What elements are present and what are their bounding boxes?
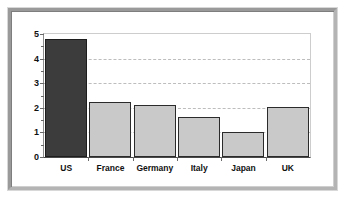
bar-japan[interactable]: [222, 132, 264, 157]
x-tick-4: [221, 157, 222, 161]
y-axis-label-3: 3: [34, 79, 39, 88]
plot-area: 5 4 3 2 1 0: [43, 33, 311, 158]
x-axis-label-italy: Italy: [191, 164, 208, 173]
x-tick-3: [177, 157, 178, 161]
bar-france[interactable]: [89, 102, 131, 157]
y-axis-label-2: 2: [34, 103, 39, 112]
bar-slot-japan: [221, 34, 265, 157]
chart-frame-border: 5 4 3 2 1 0: [8, 8, 337, 190]
y-tick-0: [40, 157, 44, 158]
y-axis-label-0: 0: [34, 153, 39, 162]
bar-italy[interactable]: [178, 117, 220, 157]
bar-slot-france: [88, 34, 132, 157]
y-axis-label-1: 1: [34, 128, 39, 137]
chart-page: 5 4 3 2 1 0: [0, 0, 345, 198]
bar-slot-uk: [266, 34, 310, 157]
bar-slot-germany: [133, 34, 177, 157]
y-axis-label-5: 5: [34, 30, 39, 39]
bar-us[interactable]: [45, 39, 87, 157]
bar-series: [44, 34, 310, 157]
bar-germany[interactable]: [134, 105, 176, 157]
x-axis-label-france: France: [97, 164, 125, 173]
x-axis-label-uk: UK: [282, 164, 294, 173]
x-axis-label-japan: Japan: [231, 164, 256, 173]
bar-slot-italy: [177, 34, 221, 157]
y-axis-label-4: 4: [34, 54, 39, 63]
x-axis-label-germany: Germany: [136, 164, 173, 173]
x-tick-2: [133, 157, 134, 161]
x-axis-label-us: US: [60, 164, 72, 173]
bar-slot-us: [44, 34, 88, 157]
x-tick-5: [266, 157, 267, 161]
x-tick-1: [88, 157, 89, 161]
bar-chart: 5 4 3 2 1 0: [11, 11, 340, 193]
bar-uk[interactable]: [267, 107, 309, 157]
